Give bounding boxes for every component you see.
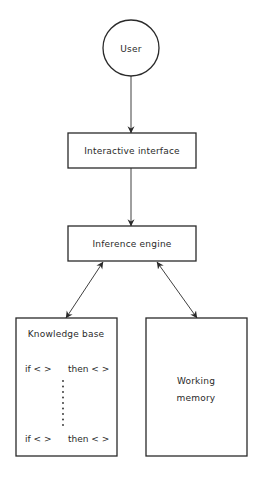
arrow-engine-working-memory xyxy=(157,262,197,318)
inference-engine-node: Inference engine xyxy=(68,226,196,261)
working-memory-label-line2: memory xyxy=(177,393,216,403)
inference-engine-label: Inference engine xyxy=(92,239,171,249)
arrow-engine-knowledge-base xyxy=(66,262,103,318)
rule-1-then: then < > xyxy=(68,364,109,374)
expert-system-diagram: User Interactive interface Inference eng… xyxy=(0,0,259,477)
user-node: User xyxy=(103,20,159,76)
rule-2-if: if < > xyxy=(25,434,51,444)
user-label: User xyxy=(120,44,141,54)
interactive-interface-label: Interactive interface xyxy=(84,146,180,156)
knowledge-base-node: Knowledge base if < > then < > if < > th… xyxy=(16,318,117,456)
interactive-interface-node: Interactive interface xyxy=(68,133,196,168)
vertical-ellipsis-icon xyxy=(62,380,64,426)
working-memory-box xyxy=(146,318,247,456)
working-memory-label-line1: Working xyxy=(177,376,215,386)
knowledge-base-label: Knowledge base xyxy=(28,329,105,339)
rule-1-if: if < > xyxy=(25,364,51,374)
rule-2-then: then < > xyxy=(68,434,109,444)
working-memory-node: Working memory xyxy=(146,318,247,456)
